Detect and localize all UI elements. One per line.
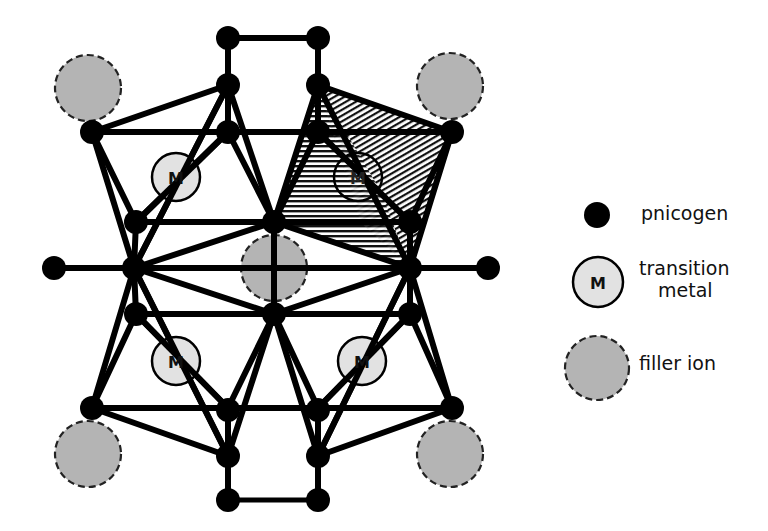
legend-label-filler-ion: filler ion bbox=[639, 352, 716, 374]
legend-label-pnicogen: pnicogen bbox=[641, 202, 728, 224]
filler-ion-bottom-right bbox=[417, 421, 483, 487]
svg-text:M: M bbox=[354, 353, 370, 372]
svg-text:M: M bbox=[168, 353, 184, 372]
legend: M bbox=[565, 202, 629, 400]
svg-text:M: M bbox=[590, 274, 606, 293]
filler-ion-top-left bbox=[55, 55, 121, 121]
svg-text:M: M bbox=[168, 169, 184, 188]
filler-ion-bottom-left bbox=[55, 421, 121, 487]
legend-label-metal: metal bbox=[658, 279, 713, 301]
filler-ion-top-right bbox=[417, 53, 483, 119]
legend-label-transition: transition bbox=[639, 257, 730, 279]
svg-text:M: M bbox=[350, 169, 366, 188]
legend-filler-ion-circle bbox=[565, 336, 629, 400]
legend-pnicogen-dot bbox=[584, 202, 610, 228]
bonds bbox=[50, 38, 488, 500]
